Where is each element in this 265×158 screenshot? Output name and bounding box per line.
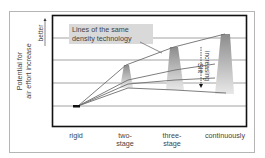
x-label-continuously: continuously <box>205 131 245 140</box>
x-label-two-stage-2: stage <box>116 139 134 148</box>
x-label-three-stage-2: stage <box>163 139 181 148</box>
annotation-line2: increasing <box>203 51 211 81</box>
y-axis-label-line1: Potential for <box>15 51 24 90</box>
legend-line2: density technology <box>72 34 132 43</box>
annotation-line1: Slit <box>196 63 205 73</box>
better-label: better <box>37 24 44 42</box>
diagram-canvas: Lines of the same density technology Sli… <box>0 0 265 158</box>
x-label-rigid: rigid <box>69 131 83 140</box>
rigid-marker <box>73 105 80 108</box>
y-axis-label-line2: air effort increase <box>24 43 33 98</box>
legend-line1: Lines of the same <box>72 25 129 34</box>
